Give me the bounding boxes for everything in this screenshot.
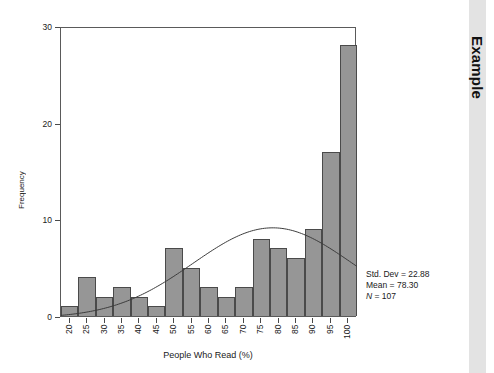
plot-area [60,27,356,317]
x-axis-tick-mark [104,318,105,323]
x-axis-tick-label: 30 [99,325,109,347]
histogram-bar [200,287,217,316]
x-axis-tick-label: 70 [238,325,248,347]
histogram-bar [78,277,95,316]
x-axis-tick-label: 35 [116,325,126,347]
x-axis-tick-mark [330,318,331,323]
x-axis-tick-label: 75 [255,325,265,347]
y-axis-title: Frequency [14,150,28,230]
x-axis-tick-mark [260,318,261,323]
x-axis-tick-label: 25 [81,325,91,347]
x-axis-tick-mark [121,318,122,323]
histogram-bar [253,239,270,316]
histogram-bar [131,297,148,316]
x-axis-tick-label: 65 [220,325,230,347]
histogram-bar [305,229,322,316]
histogram-bar [235,287,252,316]
x-axis-tick-label: 95 [325,325,335,347]
x-axis-tick-mark [208,318,209,323]
x-axis-tick-mark [225,318,226,323]
x-axis-tick-mark [243,318,244,323]
histogram-bar [322,152,339,316]
y-axis-tick-label: 30 [28,23,52,31]
x-axis-tick-mark [191,318,192,323]
x-axis-tick-mark [156,318,157,323]
histogram-figure: Frequency 0102030 2025303540455055606570… [0,0,460,373]
x-axis-tick-label: 20 [64,325,74,347]
x-axis-tick-label: 85 [290,325,300,347]
x-axis-tick-label: 45 [151,325,161,347]
y-axis-tick-label: 10 [28,216,52,224]
n-text: N = 107 [366,291,452,302]
std-dev-text: Std. Dev = 22.88 [366,269,452,280]
x-axis-tick-mark [295,318,296,323]
x-axis-tick-label: 55 [186,325,196,347]
x-axis-tick-mark [69,318,70,323]
histogram-bar [218,297,235,316]
x-axis-tick-label: 60 [203,325,213,347]
histogram-bar [270,248,287,316]
statistics-annotation: Std. Dev = 22.88 Mean = 78.30 N = 107 [366,269,452,302]
mean-text: Mean = 78.30 [366,280,452,291]
histogram-bar [340,45,357,316]
side-tab-label: Example [469,8,486,128]
histogram-bar [165,248,182,316]
x-axis-tick-label: 40 [133,325,143,347]
screenshot-page: Frequency 0102030 2025303540455055606570… [0,0,494,373]
x-axis-tick-label: 80 [273,325,283,347]
x-axis-tick-label: 100 [342,325,352,347]
histogram-bar [183,268,200,316]
x-axis-title: People Who Read (%) [60,350,356,360]
y-axis-tick-label: 20 [28,120,52,128]
x-axis-tick-mark [138,318,139,323]
x-axis-tick-label: 50 [168,325,178,347]
histogram-bar [96,297,113,316]
histogram-bar [61,306,78,316]
y-axis-tick-mark [55,317,60,318]
histogram-bar [287,258,304,316]
x-axis-tick-mark [347,318,348,323]
x-axis-tick-label: 90 [307,325,317,347]
bars-layer [61,28,355,316]
histogram-bar [113,287,130,316]
n-value: = 107 [372,291,396,301]
histogram-bar [148,306,165,316]
x-axis-tick-mark [173,318,174,323]
x-axis-tick-mark [278,318,279,323]
x-axis-tick-mark [86,318,87,323]
y-axis-tick-label: 0 [28,313,52,321]
x-axis-tick-mark [312,318,313,323]
